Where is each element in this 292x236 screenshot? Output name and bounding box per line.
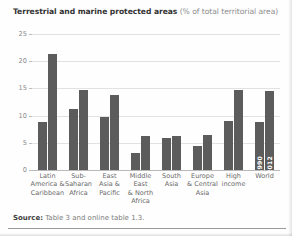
bar-1990-sub-saharan-africa [69, 109, 78, 170]
bar-group [69, 34, 88, 170]
x-axis-label-line: Asia [184, 189, 221, 197]
plot-canvas: 0510152025 19902012 [32, 34, 280, 170]
bar-2012-high-income [234, 90, 243, 170]
bar-group [131, 34, 150, 170]
bar-1990-east-asia-pacific [100, 117, 109, 170]
bar-group: 19902012 [255, 34, 274, 170]
source-label: Source: [13, 214, 43, 222]
bar-group [162, 34, 181, 170]
bar-2012-world: 2012 [265, 91, 274, 170]
bar-2012-sub-saharan-africa [79, 90, 88, 171]
chart-title-main: Terrestrial and marine protected areas [13, 7, 177, 16]
bar-2012-europe-central-asia [203, 135, 212, 170]
chart-title-units: (% of total territorial area) [180, 7, 278, 16]
source-text: Table 3 and online table 1.3. [45, 214, 144, 222]
y-tick-label-20: 20 [19, 57, 27, 65]
page-edge-bottom [0, 233, 292, 236]
x-axis-label-line: income [215, 180, 252, 188]
bar-1990-europe-central-asia [193, 146, 202, 170]
bar-1990-world: 1990 [255, 122, 264, 170]
bar-group [224, 34, 243, 170]
y-tick-mark-0 [29, 170, 32, 171]
bar-1990-middle-east-north-africa [131, 153, 140, 170]
bar-group [100, 34, 119, 170]
y-tick-label-5: 5 [23, 139, 27, 147]
page-edge-right [288, 0, 292, 236]
bar-1990-south-asia [162, 138, 171, 170]
bar-groups: 19902012 [32, 34, 280, 170]
bar-2012-south-asia [172, 136, 181, 170]
bar-1990-high-income [224, 121, 233, 170]
bar-group [193, 34, 212, 170]
y-tick-label-25: 25 [19, 30, 27, 38]
y-tick-label-10: 10 [19, 112, 27, 120]
source-note: Source: Table 3 and online table 1.3. [13, 214, 145, 222]
gridline-0: 0 [32, 170, 280, 171]
x-axis-label-line: & North [122, 189, 159, 197]
plot-area: 0510152025 19902012 [0, 22, 292, 182]
bar-1990-latin-america-caribbean [38, 122, 47, 170]
bar-2012-east-asia-pacific [110, 95, 119, 170]
bar-2012-latin-america-caribbean [48, 54, 57, 170]
y-tick-label-15: 15 [19, 84, 27, 92]
x-axis-label-line: Africa [122, 197, 159, 205]
bar-group [38, 34, 57, 170]
x-axis-label-world: World [246, 172, 283, 180]
y-tick-label-0: 0 [23, 166, 27, 174]
x-axis-label-line: World [246, 172, 283, 180]
x-axis-labels: LatinAmerica &CaribbeanSub-SaharanAfrica… [32, 172, 280, 208]
source-divider [8, 228, 286, 229]
chart-title: Terrestrial and marine protected areas (… [13, 7, 278, 16]
figure-page: Terrestrial and marine protected areas (… [0, 0, 292, 236]
bar-2012-middle-east-north-africa [141, 136, 150, 170]
